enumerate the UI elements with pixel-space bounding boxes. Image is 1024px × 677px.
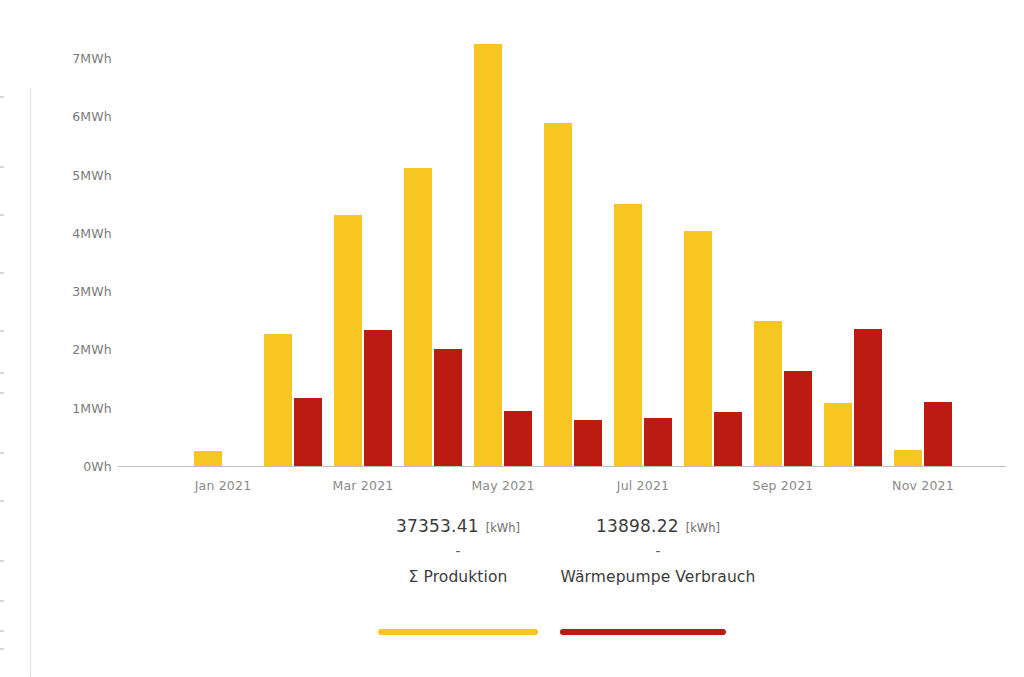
y-axis-tick: 1MWh [72,400,112,415]
legend-item-waermepumpe-verbrauch[interactable]: 13898.22 [kWh] - Wärmepumpe Verbrauch [548,516,768,588]
bar-group [824,0,882,466]
bar-group [194,0,252,466]
bar-group [964,0,1022,466]
legend-label: Σ Produktion [348,567,568,588]
x-axis-tick: May 2021 [471,478,534,493]
y-axis-tick: 3MWh [72,284,112,299]
bar-verbrauch[interactable] [714,412,742,466]
bar-verbrauch[interactable] [504,411,532,466]
bar-group [474,0,532,466]
y-axis-tick: 6MWh [72,109,112,124]
y-axis-tick: 7MWh [72,50,112,65]
legend-item-produktion[interactable]: 37353.41 [kWh] - Σ Produktion [348,516,568,588]
bar-group [754,0,812,466]
bar-produktion[interactable] [194,451,222,466]
x-axis-tick: Mar 2021 [333,478,394,493]
legend-unit: [kWh] [486,521,520,535]
plot-area [118,0,1006,466]
bar-produktion[interactable] [334,215,362,466]
energy-bar-chart: 0Wh1MWh2MWh3MWh4MWh5MWh6MWh7MWh Jan 2021… [0,0,1024,500]
y-axis: 0Wh1MWh2MWh3MWh4MWh5MWh6MWh7MWh [0,0,120,500]
legend-value: 37353.41 [396,516,479,536]
bar-group [544,0,602,466]
bar-produktion[interactable] [684,231,712,466]
bar-group [334,0,392,466]
legend-value-row: 13898.22 [kWh] [548,516,768,536]
legend-unit: [kWh] [686,521,720,535]
bar-group [684,0,742,466]
legend-color-rule-produktion [378,629,538,635]
y-axis-tick: 5MWh [72,167,112,182]
bar-verbrauch[interactable] [294,398,322,466]
bar-group [894,0,952,466]
bar-group [404,0,462,466]
bar-produktion[interactable] [544,123,572,466]
bar-verbrauch[interactable] [854,329,882,466]
legend-value: 13898.22 [596,516,679,536]
legend-separator: - [548,544,768,558]
y-axis-tick: 2MWh [72,342,112,357]
legend-label: Wärmepumpe Verbrauch [548,567,768,588]
bar-produktion[interactable] [894,450,922,466]
bar-produktion[interactable] [614,204,642,466]
legend-color-rule-verbrauch [560,629,726,635]
bar-produktion[interactable] [824,403,852,466]
bar-produktion[interactable] [474,44,502,466]
bar-produktion[interactable] [754,321,782,466]
bar-produktion[interactable] [404,168,432,466]
x-axis-tick: Jan 2021 [195,478,252,493]
bar-verbrauch[interactable] [434,349,462,466]
bar-verbrauch[interactable] [924,402,952,466]
x-axis-tick: Jul 2021 [617,478,669,493]
chart-page: 0Wh1MWh2MWh3MWh4MWh5MWh6MWh7MWh Jan 2021… [0,0,1024,677]
x-axis: Jan 2021Mar 2021May 2021Jul 2021Sep 2021… [118,472,1006,500]
legend-value-row: 37353.41 [kWh] [348,516,568,536]
bar-verbrauch[interactable] [784,371,812,466]
bar-verbrauch[interactable] [574,420,602,466]
edge-mark [0,500,4,502]
bar-produktion[interactable] [264,334,292,466]
x-axis-tick: Nov 2021 [892,478,954,493]
x-axis-baseline [118,466,1006,467]
legend-separator: - [348,544,568,558]
y-axis-tick: 4MWh [72,225,112,240]
bar-verbrauch[interactable] [644,418,672,466]
bar-group [264,0,322,466]
x-axis-tick: Sep 2021 [753,478,814,493]
chart-legend: 37353.41 [kWh] - Σ Produktion 13898.22 [… [0,516,1024,656]
bar-verbrauch[interactable] [364,330,392,466]
bar-group [614,0,672,466]
y-axis-tick: 0Wh [83,459,112,474]
